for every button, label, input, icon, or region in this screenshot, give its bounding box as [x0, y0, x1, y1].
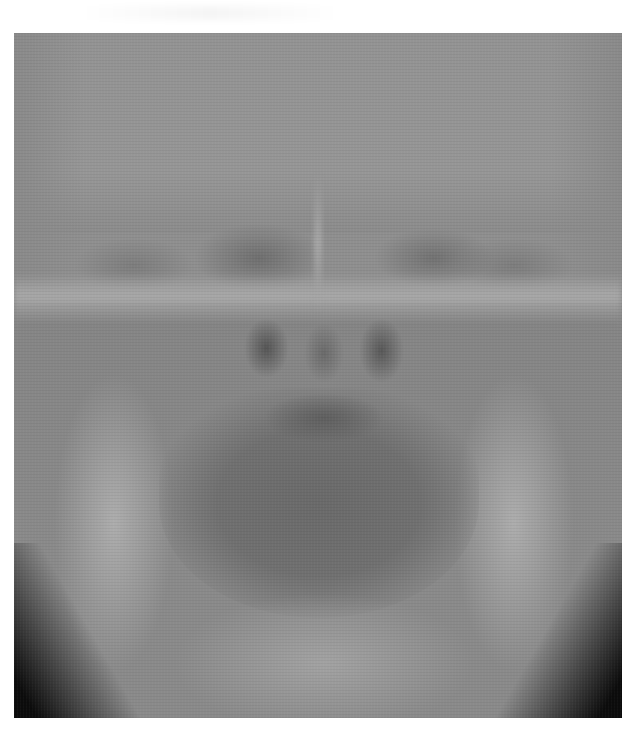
scan-bleed-artifact: [80, 6, 340, 20]
xray-image: [14, 33, 622, 718]
film-grain: [14, 33, 622, 718]
